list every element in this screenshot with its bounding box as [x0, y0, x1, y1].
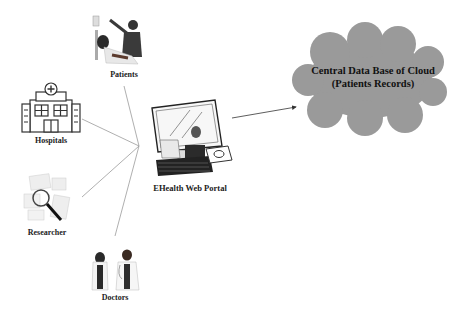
computer-workstation-icon [152, 100, 232, 176]
edge-hospitals-portal [82, 119, 139, 146]
portal-label: EHealth Web Portal [150, 183, 230, 193]
hospitals-label: Hospitals [28, 136, 74, 145]
patient-with-caregiver-icon [93, 16, 142, 64]
diagram-canvas [0, 0, 465, 317]
hospital-building-icon [22, 83, 80, 132]
edge-patients-portal [124, 86, 139, 146]
cloud-label: Central Data Base of Cloud (Patients Rec… [300, 64, 446, 90]
edge-researcher-portal [82, 146, 139, 197]
patients-label: Patients [102, 70, 146, 79]
arrow-portal-cloud [232, 107, 296, 118]
researcher-label: Researcher [22, 228, 72, 237]
cloud-label-line2: (Patients Records) [300, 77, 446, 90]
magnifier-over-documents-icon [24, 174, 70, 220]
edge-doctors-portal [115, 146, 139, 236]
doctors-pair-icon [92, 250, 139, 291]
doctors-label: Doctors [93, 293, 137, 302]
cloud-label-line1: Central Data Base of Cloud [300, 64, 446, 77]
